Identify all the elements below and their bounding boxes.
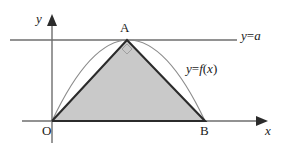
- line-eq-rhs: a: [254, 28, 261, 43]
- label-curve-equation: y=f(x): [186, 62, 217, 75]
- math-figure: A B O y x y=a y=f(x): [0, 0, 289, 150]
- y-axis-arrow-icon: [47, 14, 57, 26]
- label-point-b: B: [200, 124, 209, 137]
- curve-eq-close-paren: ): [213, 61, 217, 76]
- label-origin: O: [42, 124, 51, 137]
- label-x-axis: x: [265, 124, 271, 137]
- label-y-axis: y: [36, 12, 42, 25]
- label-point-a: A: [120, 21, 129, 34]
- label-line-equation: y=a: [241, 29, 261, 42]
